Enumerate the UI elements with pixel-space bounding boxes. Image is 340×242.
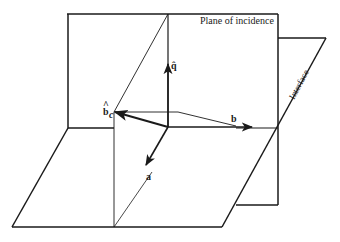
interface-plane [222, 38, 326, 227]
interface-label: Interface [287, 68, 311, 101]
plane-of-incidence-diagram: Plane of incidence Interface q̂ ^ b c b … [0, 0, 340, 242]
b-label: b [231, 113, 237, 124]
a-vector [146, 127, 168, 165]
q-hat-label: q̂ [171, 60, 177, 71]
b-c-label: ^ b c [103, 99, 114, 120]
plane-of-incidence [67, 14, 278, 227]
b-c-vector [115, 112, 168, 127]
a-label: a [146, 171, 151, 182]
plane-of-incidence-label: Plane of incidence [200, 15, 274, 26]
interface-base [12, 128, 222, 227]
b-c-subscript: c [109, 109, 114, 120]
vector-guides [114, 112, 236, 126]
